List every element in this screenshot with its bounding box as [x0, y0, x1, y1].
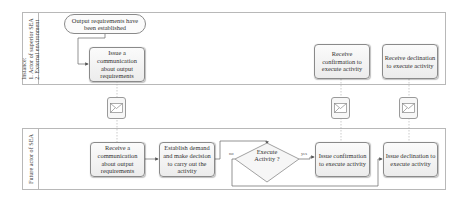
task-label: Issue confirmation to execute activity [317, 152, 368, 167]
envelope-icon [402, 103, 415, 113]
message-confirmation[interactable] [331, 97, 350, 119]
task-receive-declination[interactable]: Receive declination to execute activity [382, 44, 438, 79]
task-label: Receive confirmation to execute activity [316, 50, 368, 73]
task-establish-demand[interactable]: Establish demand and make decision to ca… [159, 142, 215, 177]
start-event-label: Output requirements have been establishe… [65, 17, 145, 32]
gateway-execute-activity-label: Execute Activity ? [250, 148, 284, 163]
envelope-icon [334, 103, 347, 113]
start-event-output-requirements[interactable]: Output requirements have been establishe… [64, 14, 146, 34]
task-issue-confirmation[interactable]: Issue confirmation to execute activity [315, 142, 370, 177]
gateway-yes-label: yes [301, 151, 307, 156]
task-label: Issue a communication about output requi… [91, 49, 143, 79]
task-issue-communication[interactable]: Issue a communication about output requi… [89, 47, 145, 82]
task-receive-confirmation[interactable]: Receive confirmation to execute activity [314, 44, 370, 79]
message-output-requirements[interactable] [107, 97, 126, 119]
task-label: Issue declination to execute activity [385, 152, 436, 167]
message-declination[interactable] [399, 97, 418, 119]
task-label: Establish demand and make decision to ca… [161, 144, 213, 174]
task-issue-declination[interactable]: Issue declination to execute activity [383, 142, 438, 177]
gateway-no-label: no [229, 151, 234, 156]
envelope-icon [110, 103, 123, 113]
task-label: Receive a communication about output req… [92, 144, 143, 174]
task-receive-communication[interactable]: Receive a communication about output req… [90, 142, 145, 177]
task-label: Receive declination to execute activity [384, 54, 436, 69]
